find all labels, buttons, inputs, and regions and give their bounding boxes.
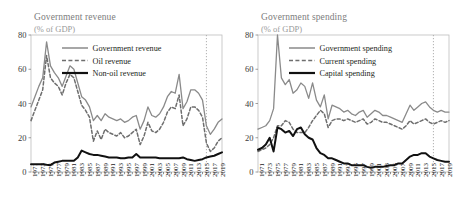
x-tick-label: 1989	[329, 163, 337, 178]
y-tick-label: 60	[18, 64, 27, 74]
x-tick-label: 2001	[148, 163, 156, 178]
chart-svg-spending: 0204060801971197319751977197919811983198…	[227, 0, 454, 222]
x-tick-label: 1987	[94, 163, 102, 178]
y-tick-label: 60	[245, 64, 254, 74]
y-tick-label: 20	[245, 133, 254, 143]
chart-svg-revenue: 0204060801971197319751977197919811983198…	[0, 0, 227, 222]
x-tick-label: 2007	[399, 163, 407, 178]
x-tick-label: 1999	[368, 163, 376, 178]
legend-label-2: Non-oil revenue	[93, 69, 147, 78]
x-tick-label: 2013	[195, 163, 203, 178]
legend-label-0: Government spending	[320, 44, 393, 53]
x-tick-label: 1979	[290, 163, 298, 178]
y-tick-label: 40	[245, 99, 254, 109]
x-tick-label: 2011	[414, 163, 422, 177]
x-tick-label: 2009	[180, 163, 188, 178]
x-tick-label: 1983	[305, 163, 313, 178]
x-tick-label: 2007	[172, 163, 180, 178]
x-tick-label: 2001	[375, 163, 383, 178]
x-tick-label: 1995	[125, 163, 133, 178]
x-tick-label: 2019	[446, 163, 454, 178]
x-tick-label: 1971	[258, 163, 266, 178]
panel-government-revenue: Government revenue (% of GDP) 0204060801…	[0, 0, 227, 222]
x-tick-label: 1997	[133, 163, 141, 178]
x-tick-label: 2009	[407, 163, 415, 178]
x-tick-label: 1975	[274, 163, 282, 178]
x-tick-label: 2019	[219, 163, 227, 178]
x-tick-label: 1987	[321, 163, 329, 178]
y-tick-label: 40	[18, 99, 27, 109]
panel-government-spending: Government spending (% of GDP) 020406080…	[227, 0, 454, 222]
legend-label-0: Government revenue	[93, 44, 162, 53]
x-tick-label: 1991	[336, 163, 344, 178]
x-tick-label: 2013	[422, 163, 430, 178]
x-tick-label: 1977	[55, 163, 63, 178]
x-tick-label: 1991	[109, 163, 117, 178]
y-tick-label: 80	[245, 30, 254, 40]
x-tick-label: 2011	[187, 163, 195, 177]
x-tick-label: 1985	[313, 163, 321, 178]
figure-two-panel-chart: Government revenue (% of GDP) 0204060801…	[0, 0, 454, 222]
y-tick-label: 0	[249, 167, 253, 177]
legend-label-1: Oil revenue	[93, 57, 132, 66]
x-tick-label: 1983	[78, 163, 86, 178]
x-tick-label: 1973	[266, 163, 274, 178]
x-tick-label: 2017	[438, 163, 446, 178]
y-tick-label: 20	[18, 133, 27, 143]
x-tick-label: 2015	[430, 163, 438, 178]
x-tick-label: 1981	[297, 163, 305, 178]
plot-area-spending: 0204060801971197319751977197919811983198…	[227, 0, 454, 222]
x-tick-label: 2015	[203, 163, 211, 178]
y-tick-label: 80	[18, 30, 27, 40]
plot-area-revenue: 0204060801971197319751977197919811983198…	[0, 0, 227, 222]
x-tick-label: 1977	[282, 163, 290, 178]
legend-label-1: Current spending	[320, 57, 377, 66]
x-tick-label: 1981	[70, 163, 78, 178]
x-tick-label: 2003	[156, 163, 164, 178]
legend-label-2: Capital spending	[320, 69, 375, 78]
x-tick-label: 1989	[102, 163, 110, 178]
x-tick-label: 1979	[63, 163, 71, 178]
x-tick-label: 1993	[117, 163, 125, 178]
x-tick-label: 1985	[86, 163, 94, 178]
x-tick-label: 1999	[141, 163, 149, 178]
x-tick-label: 2017	[211, 163, 219, 178]
x-tick-label: 2005	[164, 163, 172, 178]
y-tick-label: 0	[22, 167, 26, 177]
